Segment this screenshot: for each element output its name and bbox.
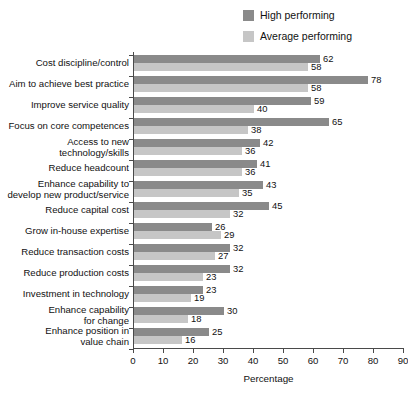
bar-high-performing[interactable]: 42 <box>134 139 404 147</box>
category-label: Reduce production costs <box>1 268 129 279</box>
y-axis-tick <box>129 265 133 266</box>
x-axis-tick-label: 40 <box>248 355 259 366</box>
bar-rect <box>134 55 320 63</box>
bar-value-label: 40 <box>257 103 267 114</box>
category-label: Investment in technology <box>1 289 129 300</box>
bar-average-performing[interactable]: 35 <box>134 189 404 197</box>
y-axis-tick <box>129 286 133 287</box>
chart-row: Enhance capability to develop new produc… <box>0 181 407 197</box>
bar-average-performing[interactable]: 23 <box>134 273 404 281</box>
bar-average-performing[interactable]: 27 <box>134 252 404 260</box>
bar-average-performing[interactable]: 32 <box>134 210 404 218</box>
bar-high-performing[interactable]: 32 <box>134 244 404 252</box>
category-label: Reduce headcount <box>1 163 129 174</box>
legend-swatch-icon <box>243 31 254 42</box>
chart-row: Enhance position in value chain2516 <box>0 328 407 344</box>
bar-value-label: 58 <box>311 82 321 93</box>
chart-row: Cost discipline/control6258 <box>0 55 407 71</box>
bar-rect <box>134 231 221 239</box>
chart-row: Improve service quality5940 <box>0 97 407 113</box>
bar-value-label: 19 <box>194 292 204 303</box>
bar-average-performing[interactable]: 38 <box>134 126 404 134</box>
bar-average-performing[interactable]: 58 <box>134 84 404 92</box>
bar-rect <box>134 223 212 231</box>
bar-average-performing[interactable]: 18 <box>134 315 404 323</box>
x-axis-tick <box>163 349 164 353</box>
bar-rect <box>134 294 191 302</box>
category-label: Cost discipline/control <box>1 58 129 69</box>
y-axis-tick <box>129 76 133 77</box>
bar-rect <box>134 273 203 281</box>
bar-average-performing[interactable]: 16 <box>134 336 404 344</box>
bar-average-performing[interactable]: 29 <box>134 231 404 239</box>
bar-average-performing[interactable]: 36 <box>134 168 404 176</box>
y-axis-tick <box>129 139 133 140</box>
chart-row: Aim to achieve best practice7858 <box>0 76 407 92</box>
bar-rect <box>134 210 230 218</box>
bar-average-performing[interactable]: 19 <box>134 294 404 302</box>
x-axis-tick-label: 50 <box>278 355 289 366</box>
bar-value-label: 32 <box>233 208 243 219</box>
bar-value-label: 38 <box>251 124 261 135</box>
bar-high-performing[interactable]: 59 <box>134 97 404 105</box>
chart-row: Grow in-house expertise2629 <box>0 223 407 239</box>
x-axis-tick <box>253 349 254 353</box>
bar-rect <box>134 244 230 252</box>
legend-swatch-icon <box>243 10 254 21</box>
bar-rect <box>134 315 188 323</box>
category-label: Aim to achieve best practice <box>1 79 129 90</box>
chart-row: Reduce headcount4136 <box>0 160 407 176</box>
chart-row: Reduce transaction costs3227 <box>0 244 407 260</box>
bar-average-performing[interactable]: 36 <box>134 147 404 155</box>
bar-high-performing[interactable]: 26 <box>134 223 404 231</box>
x-axis-tick <box>193 349 194 353</box>
bar-high-performing[interactable]: 43 <box>134 181 404 189</box>
chart-row: Focus on core competences6538 <box>0 118 407 134</box>
bar-average-performing[interactable]: 58 <box>134 63 404 71</box>
legend-item-label: Average performing <box>260 31 352 42</box>
x-axis-tick-label: 90 <box>398 355 408 366</box>
bar-high-performing[interactable]: 23 <box>134 286 404 294</box>
bar-rect <box>134 84 308 92</box>
bar-high-performing[interactable]: 45 <box>134 202 404 210</box>
legend-item-1[interactable]: High performing <box>243 10 335 21</box>
y-axis-tick <box>129 202 133 203</box>
bar-high-performing[interactable]: 30 <box>134 307 404 315</box>
chart-row: Enhance capability for change3018 <box>0 307 407 323</box>
y-axis-tick <box>129 328 133 329</box>
bar-value-label: 18 <box>191 313 201 324</box>
bar-high-performing[interactable]: 62 <box>134 55 404 63</box>
legend-item-2[interactable]: Average performing <box>243 31 352 42</box>
bar-value-label: 16 <box>185 334 195 345</box>
category-label: Enhance position in value chain <box>1 326 129 347</box>
bar-rect <box>134 76 368 84</box>
bar-average-performing[interactable]: 40 <box>134 105 404 113</box>
bar-value-label: 36 <box>245 166 255 177</box>
x-axis-line <box>133 348 404 349</box>
category-label: Grow in-house expertise <box>1 226 129 237</box>
bar-rect <box>134 118 329 126</box>
bar-rect <box>134 126 248 134</box>
bar-high-performing[interactable]: 25 <box>134 328 404 336</box>
bar-high-performing[interactable]: 78 <box>134 76 404 84</box>
bar-rect <box>134 252 215 260</box>
legend-item-label: High performing <box>260 10 335 21</box>
category-label: Reduce transaction costs <box>1 247 129 258</box>
chart-row: Investment in technology2319 <box>0 286 407 302</box>
bar-value-label: 23 <box>206 271 216 282</box>
y-axis-tick <box>129 223 133 224</box>
bar-high-performing[interactable]: 41 <box>134 160 404 168</box>
bar-rect <box>134 97 311 105</box>
x-axis-tick-label: 0 <box>130 355 135 366</box>
x-axis-tick <box>223 349 224 353</box>
bar-value-label: 58 <box>311 61 321 72</box>
category-label: Reduce capital cost <box>1 205 129 216</box>
bar-high-performing[interactable]: 65 <box>134 118 404 126</box>
chart-row: Access to new technology/skills4236 <box>0 139 407 155</box>
category-label: Focus on core competences <box>1 121 129 132</box>
x-axis-tick <box>133 349 134 353</box>
x-axis-tick-label: 30 <box>218 355 229 366</box>
bar-high-performing[interactable]: 32 <box>134 265 404 273</box>
bar-rect <box>134 105 254 113</box>
bar-rect <box>134 189 239 197</box>
